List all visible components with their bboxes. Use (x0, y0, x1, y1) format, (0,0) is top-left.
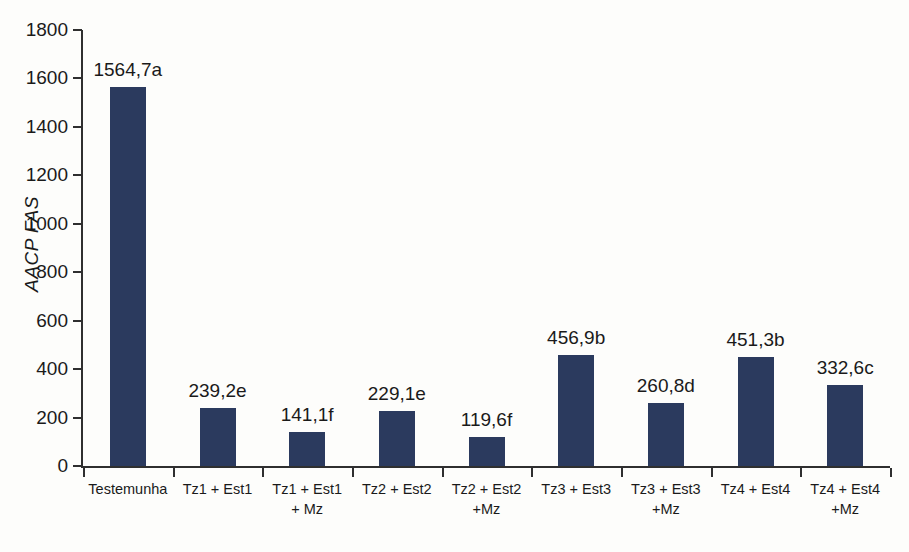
y-axis-tick-label: 0 (8, 456, 68, 475)
y-axis-tick-label: 600 (8, 311, 68, 330)
x-axis-tick (890, 468, 892, 477)
bar (289, 432, 325, 466)
bar-value-label: 451,3b (696, 330, 816, 349)
bar-value-label: 229,1e (337, 384, 457, 403)
x-axis-category-label: Testemunha (79, 480, 177, 500)
y-axis-tick (73, 126, 82, 128)
x-axis-tick (352, 468, 354, 477)
x-axis-tick (262, 468, 264, 477)
x-axis-tick (531, 468, 533, 477)
bar-value-label: 1564,7a (68, 60, 188, 79)
x-axis-tick (800, 468, 802, 477)
bar (827, 385, 863, 466)
x-axis-category-label: Tz2 + Est2 (348, 480, 446, 500)
x-axis-category-label: Tz2 + Est2 +Mz (438, 480, 536, 519)
x-axis-category-label: Tz1 + Est1 (169, 480, 267, 500)
bar (558, 355, 594, 466)
y-axis-tick (73, 174, 82, 176)
y-axis-tick (73, 223, 82, 225)
y-axis-tick-label: 200 (8, 408, 68, 427)
bar (379, 411, 415, 466)
x-axis-tick (83, 468, 85, 477)
x-axis-tick (711, 468, 713, 477)
y-axis-tick (73, 368, 82, 370)
y-axis-tick (73, 29, 82, 31)
bar (110, 87, 146, 466)
y-axis-tick-label: 1400 (8, 117, 68, 136)
y-axis-tick-label: 1600 (8, 68, 68, 87)
x-axis-category-label: Tz3 + Est3 (527, 480, 625, 500)
y-axis-tick-label: 1200 (8, 165, 68, 184)
x-axis-category-label: Tz3 + Est3 +Mz (617, 480, 715, 519)
y-axis-tick (73, 417, 82, 419)
y-axis-tick (73, 320, 82, 322)
y-axis-tick (73, 271, 82, 273)
bar-value-label: 332,6c (785, 358, 905, 377)
bar (648, 403, 684, 466)
y-axis-tick-label: 800 (8, 262, 68, 281)
x-axis-line (81, 466, 890, 468)
x-axis-category-label: Tz1 + Est1 + Mz (258, 480, 356, 519)
x-axis-tick (442, 468, 444, 477)
bar-value-label: 456,9b (516, 328, 636, 347)
bar-value-label: 239,2e (158, 381, 278, 400)
y-axis-tick (73, 465, 82, 467)
bar (469, 437, 505, 466)
y-axis-tick-label: 400 (8, 359, 68, 378)
x-axis-tick (173, 468, 175, 477)
bar (738, 357, 774, 466)
y-axis-line (81, 30, 83, 468)
x-axis-category-label: Tz4 + Est4 +Mz (796, 480, 894, 519)
x-axis-category-label: Tz4 + Est4 (707, 480, 805, 500)
bar-value-label: 260,8d (606, 376, 726, 395)
y-axis-tick-label: 1000 (8, 214, 68, 233)
bar-value-label: 141,1f (247, 405, 367, 424)
bar-chart: AACP FAS 0200400600800100012001400160018… (0, 0, 909, 552)
bar (200, 408, 236, 466)
y-axis-title: AACP FAS (21, 174, 43, 314)
bar-value-label: 119,6f (427, 410, 547, 429)
y-axis-tick-label: 1800 (8, 20, 68, 39)
x-axis-tick (621, 468, 623, 477)
